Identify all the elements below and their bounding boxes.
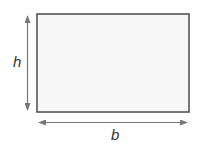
rectangle-diagram: h b: [0, 0, 201, 145]
rectangle-shape: [37, 14, 189, 112]
height-label: h: [13, 53, 21, 70]
base-label: b: [111, 126, 119, 143]
